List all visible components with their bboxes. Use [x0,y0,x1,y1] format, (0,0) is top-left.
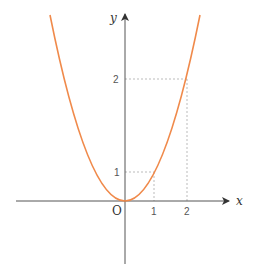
origin-label: O [112,204,122,218]
y-tick-1: 1 [114,167,120,178]
x-tick-2: 2 [184,206,190,217]
x-axis-label: x [236,194,243,208]
guide-lines [125,79,187,201]
y-tick-2: 2 [113,74,119,85]
x-tick-1: 1 [151,206,157,217]
parabola-graph: y x O 1 2 1 2 [0,0,259,275]
y-axis-label: y [109,11,117,25]
